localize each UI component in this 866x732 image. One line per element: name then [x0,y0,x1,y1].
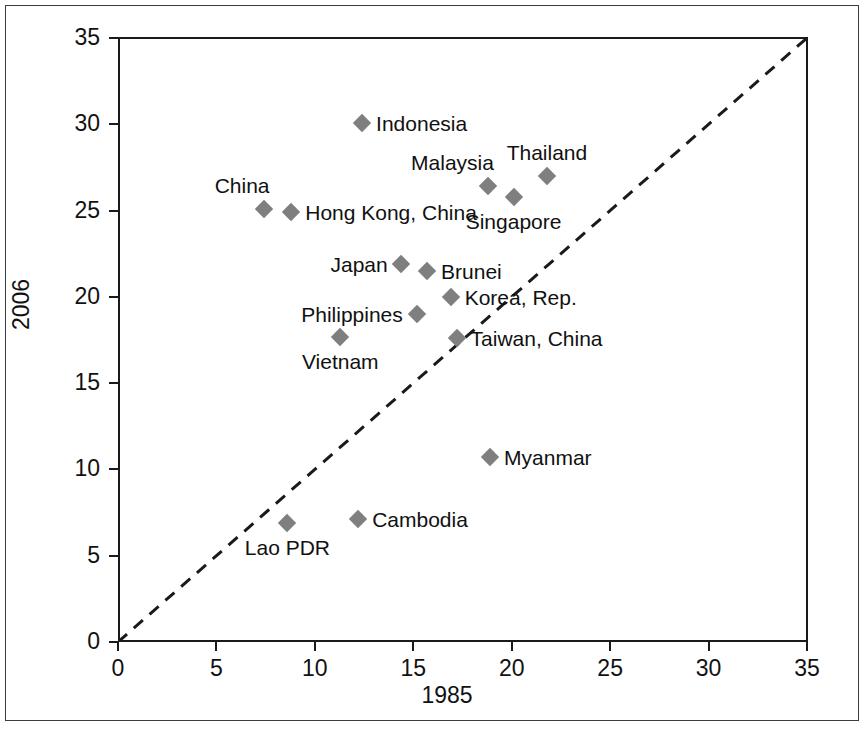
y-axis-tick-label: 35 [0,26,100,49]
y-axis-tick-label: 30 [0,112,100,135]
data-point-label: Hong Kong, China [305,202,477,223]
data-point-label: Taiwan, China [471,328,603,349]
x-axis-tick-label: 20 [472,657,552,680]
data-point-label: Indonesia [376,113,467,134]
y-axis-label: 2006 [10,279,33,330]
y-axis-tick [109,555,118,557]
data-point-label: China [215,175,270,196]
x-axis-tick-label: 35 [767,657,847,680]
x-axis-tick-label: 0 [78,657,158,680]
y-axis-tick [109,210,118,212]
x-axis-tick [314,642,316,651]
y-axis-tick-label: 25 [0,199,100,222]
data-point-label: Thailand [507,142,588,163]
y-axis-tick-label: 0 [0,630,100,653]
x-axis-tick-label: 25 [570,657,650,680]
y-axis-tick-label: 5 [0,544,100,567]
data-point-label: Cambodia [372,509,468,530]
data-point-label: Singapore [466,211,562,232]
y-axis-tick-label: 10 [0,457,100,480]
data-point-label: Lao PDR [245,537,330,558]
x-axis-tick-label: 10 [275,657,355,680]
y-axis-tick-label: 15 [0,371,100,394]
x-axis-label: 1985 [407,684,487,707]
data-point-label: Malaysia [411,152,494,173]
data-point-label: Japan [330,254,387,275]
x-axis-tick [215,642,217,651]
x-axis-tick [806,642,808,651]
x-axis-tick-label: 5 [176,657,256,680]
y-axis-tick [109,37,118,39]
y-axis-tick [109,468,118,470]
scatter-chart-figure: 0510152025303505101520253035 IndonesiaTh… [0,0,866,732]
y-axis-tick [109,123,118,125]
data-point-label: Myanmar [504,447,592,468]
x-axis-tick [412,642,414,651]
data-point-label: Korea, Rep. [465,287,577,308]
x-axis-tick [708,642,710,651]
y-axis-tick [109,382,118,384]
x-axis-tick-label: 15 [373,657,453,680]
x-axis-tick [511,642,513,651]
x-axis-tick [117,642,119,651]
data-point-label: Philippines [301,304,403,325]
data-point-label: Brunei [441,261,502,282]
x-axis-tick-label: 30 [669,657,749,680]
x-axis-tick [609,642,611,651]
y-axis-tick [109,296,118,298]
data-point-label: Vietnam [302,351,379,372]
